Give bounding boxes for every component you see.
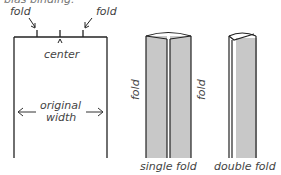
original-width-label-line2: width bbox=[46, 112, 76, 124]
single-fold-side-label-right: fold bbox=[196, 79, 208, 100]
fold-label-left: fold bbox=[10, 6, 31, 18]
double-fold-strip bbox=[229, 33, 257, 158]
single-fold-strip bbox=[146, 33, 191, 159]
fold-label-right: fold bbox=[96, 6, 117, 18]
double-fold-caption: double fold bbox=[214, 161, 276, 173]
center-label: center bbox=[44, 49, 79, 61]
single-fold-side-label-left: fold bbox=[130, 79, 142, 100]
single-fold-caption: single fold bbox=[140, 161, 197, 173]
